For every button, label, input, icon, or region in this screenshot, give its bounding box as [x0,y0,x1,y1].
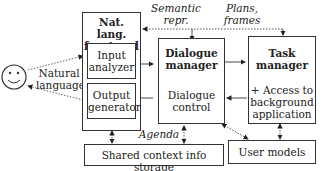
label-line: frames [222,14,262,26]
natural-language-label: Natural language [36,67,82,91]
task-manager-box: Task manager + Access to background appl… [248,36,316,124]
label-line: Input [88,49,135,61]
shared-context-label: Shared context info storage [85,149,223,171]
label-line: Semantic [150,2,202,14]
title-line: manager [159,59,224,71]
output-generator-box: Output generator [87,83,136,119]
title-line: Nat. lang. [83,16,140,40]
label-line: Output [88,89,135,101]
title-line: Task [249,47,315,59]
dialogue-manager-box: Dialogue manager Dialogue control [158,38,225,124]
dialogue-control-label: Dialogue control [159,89,224,113]
task-manager-sub: + Access to background application [249,84,315,120]
label-line: language [36,79,82,91]
label-line: control [159,101,224,113]
smiley-face-icon [2,65,26,89]
user-models-box: User models [228,140,316,164]
label-line: background [249,96,315,108]
task-manager-title: Task manager [249,47,315,71]
label-line: application [249,108,315,120]
input-analyzer-box: Input analyzer [87,43,136,79]
shared-context-box: Shared context info storage [84,144,224,166]
label-line: generator [88,101,135,113]
title-line: Dialogue [159,47,224,59]
label-line: analyzer [88,61,135,73]
output-generator-label: Output generator [88,89,135,113]
label-line: Dialogue [159,89,224,101]
input-analyzer-label: Input analyzer [88,49,135,73]
label-line: + Access to [249,84,315,96]
semantic-repr-label: Semantic repr. [150,2,202,26]
title-line: manager [249,59,315,71]
plans-frames-label: Plans, frames [222,2,262,26]
label-line: Natural [36,67,82,79]
user-models-label: User models [229,146,315,158]
dialogue-manager-title: Dialogue manager [159,47,224,71]
agenda-label: Agenda [136,128,182,140]
label-line: repr. [150,14,202,26]
label-line: Plans, [222,2,262,14]
